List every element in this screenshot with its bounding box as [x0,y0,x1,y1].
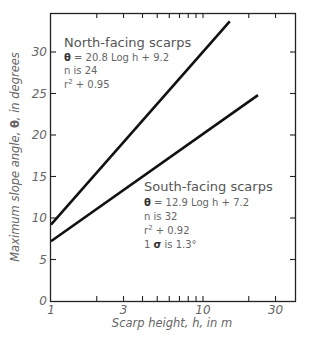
south-n: n is 32 [144,211,177,222]
north-r2: r2 + 0.95 [64,78,110,90]
y-tick-label: 25 [32,87,47,101]
north-n: n is 24 [64,65,97,76]
north-annotation: North-facing scarps θ = 20.8 Log h + 9.2… [64,35,191,90]
y-tick-label: 5 [39,253,47,267]
x-tick-label: 30 [268,303,284,317]
x-tick-label: 1 [47,303,55,317]
y-tick-label: 30 [32,45,48,59]
south-title: South-facing scarps [144,179,273,194]
y-tick-label: 0 [39,294,47,308]
x-tick-label: 3 [120,303,128,317]
south-annotation: South-facing scarps θ = 12.9 Log h + 7.2… [144,179,273,250]
y-axis-title: Maximum slope angle, θ, in degrees [8,52,22,262]
south-sigma: 1 σ is 1.3° [144,239,197,250]
south-equation: θ = 12.9 Log h + 7.2 [144,197,249,208]
north-title: North-facing scarps [64,35,191,50]
y-tick-label: 15 [32,170,47,184]
chart: 131030 051015202530 North-facing scarps … [0,0,311,348]
y-tick-label: 20 [32,128,48,142]
x-axis-title: Scarp height, h, in m [112,316,232,330]
north-equation: θ = 20.8 Log h + 9.2 [64,52,169,63]
y-tick-label: 10 [32,211,48,225]
x-tick-label: 10 [195,303,211,317]
south-r2: r2 + 0.92 [144,224,190,236]
